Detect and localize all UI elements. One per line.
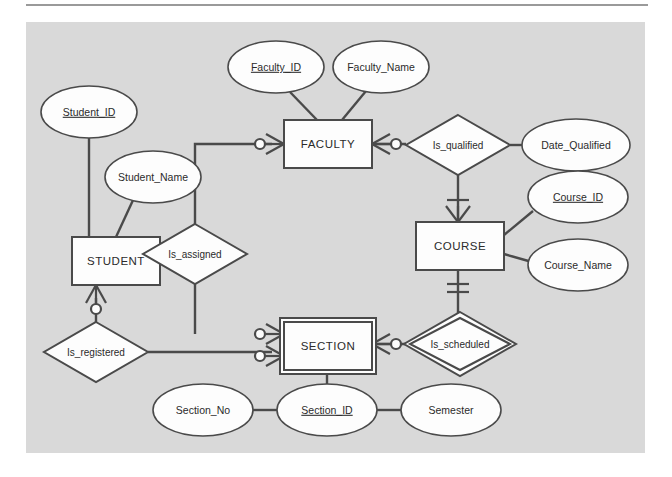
attribute-label-primary-key: Course_ID [553, 191, 604, 203]
relationship-label: Is_registered [67, 347, 125, 358]
attribute-section_no[interactable]: Section_No [153, 384, 253, 436]
er-diagram-svg: STUDENTFACULTYCOURSESECTION Is_assignedI… [26, 22, 645, 453]
entity-label: FACULTY [301, 138, 355, 150]
line-faculty_name-faculty [342, 91, 366, 120]
page-top-rule [26, 4, 648, 6]
entity-label: COURSE [434, 240, 486, 252]
entity-faculty[interactable]: FACULTY [284, 120, 372, 168]
attribute-course_name[interactable]: Course_Name [528, 239, 628, 291]
relationship-is_qualified[interactable]: Is_qualified [406, 115, 510, 175]
line-course-course_id [504, 211, 533, 235]
attribute-label: Semester [429, 404, 474, 416]
entity-section[interactable]: SECTION [280, 318, 376, 374]
attribute-course_id[interactable]: Course_ID [528, 171, 628, 223]
relationship-label: Is_assigned [168, 249, 221, 260]
entity-student[interactable]: STUDENT [72, 237, 160, 285]
attribute-label-primary-key: Faculty_ID [251, 61, 302, 73]
cardinality-faculty-left-zero-or-many [255, 134, 284, 154]
line-faculty_id-faculty [290, 92, 317, 120]
attribute-label: Section_No [176, 404, 230, 416]
entity-label: SECTION [301, 340, 356, 352]
relationship-is_scheduled[interactable]: Is_scheduled [404, 312, 516, 376]
relationship-label: Is_scheduled [431, 339, 490, 350]
relationship-is_registered[interactable]: Is_registered [44, 322, 148, 382]
attribute-label-primary-key: Student_ID [63, 106, 116, 118]
attribute-label-primary-key: Section_ID [301, 404, 353, 416]
cardinality-student-bottom-zero-or-many [86, 285, 106, 314]
entity-course[interactable]: COURSE [416, 222, 504, 270]
attribute-semester[interactable]: Semester [401, 384, 501, 436]
relationship-label: Is_qualified [433, 140, 484, 151]
attribute-faculty_name[interactable]: Faculty_Name [333, 41, 429, 93]
line-student_name-student [116, 198, 134, 237]
attribute-label: Course_Name [544, 259, 612, 271]
er-diagram-canvas: STUDENTFACULTYCOURSESECTION Is_assignedI… [26, 22, 645, 453]
cardinality-faculty-right-zero-or-many [372, 134, 401, 154]
attribute-label: Faculty_Name [347, 61, 415, 73]
entity-label: STUDENT [87, 255, 145, 267]
attribute-section_id[interactable]: Section_ID [277, 384, 377, 436]
attribute-student_name[interactable]: Student_Name [105, 151, 201, 203]
attribute-label: Student_Name [118, 171, 188, 183]
attribute-student_id[interactable]: Student_ID [41, 86, 137, 138]
attribute-label: Date_Qualified [541, 139, 611, 151]
attribute-faculty_id[interactable]: Faculty_ID [228, 41, 324, 93]
attribute-date_qualified[interactable]: Date_Qualified [522, 119, 630, 171]
